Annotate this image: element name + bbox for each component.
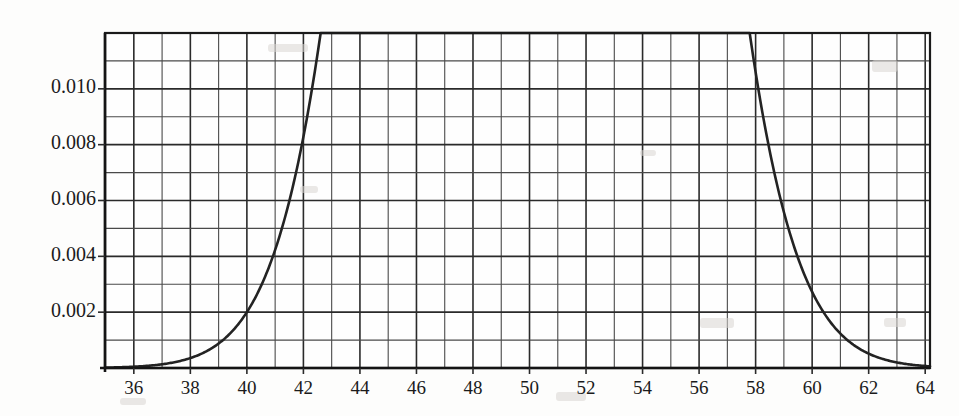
y-tick-label: 0.004 <box>51 243 96 265</box>
x-tick-label: 58 <box>746 377 765 398</box>
x-tick-label: 60 <box>803 377 822 398</box>
paper-speck <box>700 318 734 328</box>
x-tick-label: 40 <box>237 377 256 398</box>
x-tick-label: 62 <box>859 377 878 398</box>
paper-speck <box>120 398 146 405</box>
y-tick-label: 0.010 <box>51 75 96 97</box>
paper-speck <box>872 60 898 72</box>
x-tick-label: 44 <box>350 377 370 398</box>
y-tick-label: 0.008 <box>51 131 96 153</box>
x-tick-label: 64 <box>916 377 936 398</box>
y-tick-label: 0.006 <box>51 187 96 209</box>
normal-distribution-chart: 363840424446485052545658606264 0.0020.00… <box>0 0 959 416</box>
x-tick-label: 38 <box>181 377 200 398</box>
x-tick-label: 52 <box>577 377 596 398</box>
x-axis-tick-labels: 363840424446485052545658606264 <box>124 377 935 398</box>
paper-speck <box>300 186 318 193</box>
paper-speck <box>268 44 308 52</box>
x-tick-label: 56 <box>690 377 709 398</box>
x-tick-label: 36 <box>124 377 143 398</box>
chart-canvas: 363840424446485052545658606264 0.0020.00… <box>0 0 959 416</box>
x-tick-label: 48 <box>463 377 482 398</box>
chart-page: 363840424446485052545658606264 0.0020.00… <box>0 0 959 416</box>
x-tick-label: 50 <box>520 377 539 398</box>
x-tick-label: 46 <box>407 377 426 398</box>
x-tick-label: 42 <box>294 377 313 398</box>
x-tick-label: 54 <box>633 377 653 398</box>
paper-speck <box>640 150 656 156</box>
paper-speck <box>884 318 906 327</box>
y-tick-label: 0.002 <box>51 299 96 321</box>
